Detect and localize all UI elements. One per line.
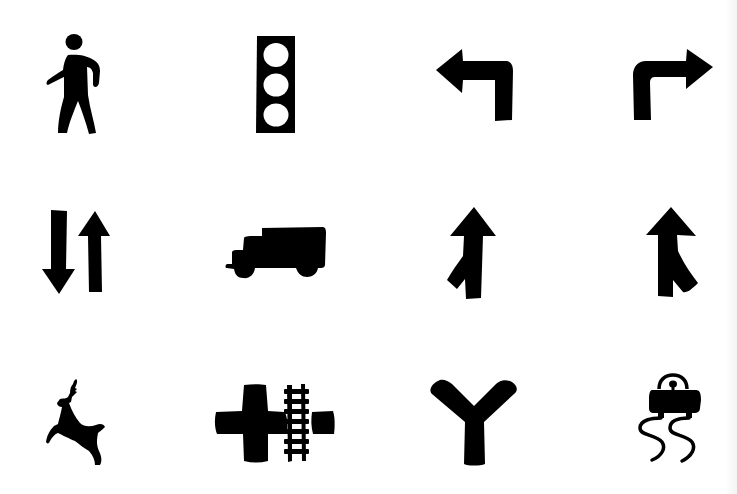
railroad-crossing-icon (214, 381, 336, 465)
pedestrian-icon (46, 33, 106, 137)
two-way-traffic-icon (41, 209, 113, 295)
left-turn-arrow-icon (435, 47, 517, 123)
merge-from-right-icon (644, 206, 704, 300)
slippery-road-icon (634, 372, 712, 466)
merge-from-left-icon (445, 206, 505, 300)
truck-icon (225, 225, 327, 280)
deer-crossing-icon (44, 377, 108, 467)
page-edge-shadow (725, 0, 737, 494)
traffic-light-icon (255, 35, 297, 134)
y-junction-icon (428, 378, 520, 468)
right-turn-arrow-icon (632, 47, 714, 123)
